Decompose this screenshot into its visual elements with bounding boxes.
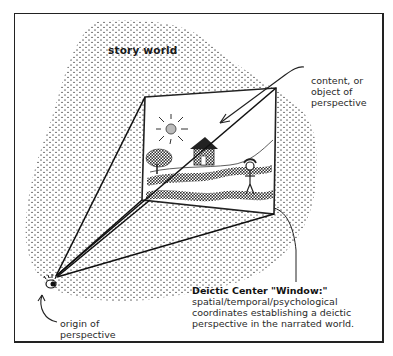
- deictic-title: Deictic Center "Window:": [192, 285, 392, 296]
- story-world-label: story world: [108, 45, 178, 56]
- origin-line: origin of: [60, 318, 116, 329]
- deictic-line: coordinates establishing a deictic: [192, 307, 392, 318]
- deictic-center-label: Deictic Center "Window:" spatial/tempora…: [192, 285, 392, 329]
- content-line: perspective: [311, 97, 391, 108]
- origin-line: perspective: [60, 329, 116, 340]
- deictic-line: perspective in the narrated world.: [192, 318, 392, 329]
- content-line: content, or: [311, 75, 391, 86]
- deictic-line: spatial/temporal/psychological: [192, 296, 392, 307]
- origin-arrow: [38, 295, 57, 322]
- content-label: content, or object of perspective: [311, 75, 391, 108]
- origin-label: origin of perspective: [60, 318, 116, 340]
- content-line: object of: [311, 86, 391, 97]
